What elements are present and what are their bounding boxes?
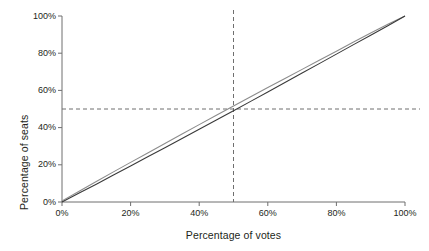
x-axis-title: Percentage of votes <box>62 229 405 241</box>
x-tick-label-20: 20% <box>111 209 151 218</box>
x-tick-label-0: 0% <box>42 209 82 218</box>
x-axis-tick-labels: 0% 20% 40% 60% 80% 100% <box>0 209 429 223</box>
x-tick-label-40: 40% <box>179 209 219 218</box>
x-tick-label-60: 60% <box>248 209 288 218</box>
y-axis-ticks <box>58 16 62 202</box>
x-axis-ticks <box>62 202 405 206</box>
y-axis-title: Percentage of seats <box>18 10 36 210</box>
x-tick-label-80: 80% <box>316 209 356 218</box>
x-tick-label-100: 100% <box>385 209 425 218</box>
chart-figure: 0% 20% 40% 60% 80% 100% 0% 20% 40% 60% 8… <box>0 0 429 251</box>
